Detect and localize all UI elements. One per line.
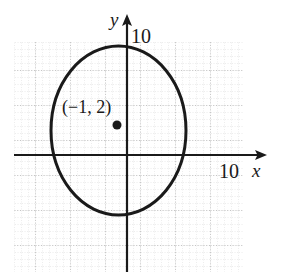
y-axis-label: y: [110, 10, 118, 29]
grid-major: [14, 42, 243, 272]
graph-figure: y x 10 10 (−1, 2): [0, 0, 284, 276]
center-point-label: (−1, 2): [62, 98, 111, 116]
x-axis-tick-label-10: 10: [219, 161, 239, 181]
center-point-dot: [113, 121, 122, 130]
x-axis-label: x: [252, 161, 260, 180]
y-axis-tick-label-10: 10: [131, 26, 151, 46]
